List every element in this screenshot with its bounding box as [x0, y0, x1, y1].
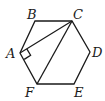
vertex-label-d: D	[91, 45, 103, 60]
vertex-label-c: C	[73, 7, 83, 22]
hexagon-diagram: B C D E F A	[0, 0, 105, 101]
diagonal-cf	[37, 21, 72, 84]
vertex-label-a: A	[5, 46, 15, 61]
vertex-label-b: B	[26, 7, 37, 22]
vertex-label-f: F	[24, 85, 35, 100]
vertex-label-e: E	[73, 85, 84, 100]
